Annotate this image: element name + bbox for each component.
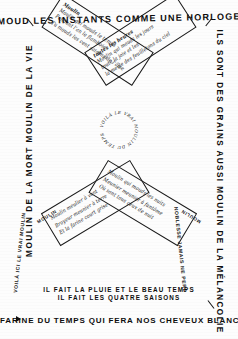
hub-ring-text: VOILÀ LE VRAI MOULIN DU TEMPS QUI TOURNE…	[93, 103, 139, 150]
bottom-line-2: IL FAIT LES QUATRE SAISONS	[0, 294, 238, 301]
mill-hub-ring: VOILÀ LE VRAI MOULIN DU TEMPS QUI TOURNE…	[96, 107, 142, 153]
right-edge-text: ILS SONT DES GRAINS AUSSI MOULIN DE LA M…	[215, 30, 224, 280]
bottom-final-line: FARINE DU TEMPS QUI FERA NOS CHEVEUX BLA…	[0, 316, 238, 325]
bottom-line-1: IL FAIT LA PLUIE ET LE BEAU TEMPS	[0, 286, 238, 293]
calligram-page: MOUD LES INSTANTS COMME UNE HORLOGE MOUL…	[0, 0, 238, 339]
top-banner-text: MOUD LES INSTANTS COMME UNE HORLOGE	[0, 11, 238, 26]
left-edge-text: MOULIN DE LA MORT MOULIN DE LA VIE	[25, 26, 34, 276]
bottom-text-block: IL FAIT LA PLUIE ET LE BEAU TEMPS IL FAI…	[0, 284, 238, 303]
